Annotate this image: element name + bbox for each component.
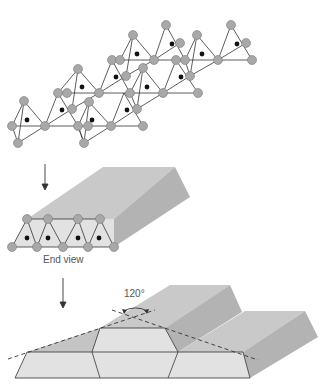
arrow-down-icon	[42, 164, 48, 190]
end-view-label: End view	[43, 254, 84, 265]
center-dots	[25, 42, 240, 123]
diagram: End view 120°	[0, 0, 327, 389]
prism-stack	[8, 285, 318, 378]
prism-single	[8, 167, 191, 252]
arrow-down-icon	[60, 278, 66, 308]
atoms	[8, 21, 257, 148]
diagram-graphic	[0, 0, 327, 389]
angle-label: 120°	[124, 288, 145, 299]
